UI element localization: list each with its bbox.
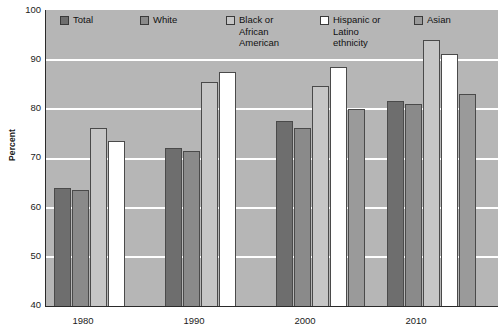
y-axis-ticks: 100 90 80 70 60 50 40 [0,0,41,336]
bar-hispanic-or-latino-ethnicity-2000 [330,67,347,306]
x-tick-1980: 1980 [53,315,113,326]
y-tick-60: 60 [15,202,41,212]
plot-area: Total White Black or African American Hi… [45,10,498,307]
bar-hispanic-or-latino-ethnicity-1980 [108,141,125,306]
bar-white-2000 [294,128,311,306]
bar-white-1980 [72,190,89,306]
bar-total-2010 [387,101,404,306]
bar-group-2000 [276,10,366,306]
bar-white-1990 [183,151,200,306]
bar-asian-2000 [348,109,365,306]
bar-group-2010 [387,10,477,306]
bar-group-1990 [165,10,255,306]
bar-black-or-african-american-2000 [312,86,329,306]
bar-hispanic-or-latino-ethnicity-2010 [441,54,458,306]
y-tick-100: 100 [15,5,41,15]
bar-white-2010 [405,104,422,306]
bar-black-or-african-american-2010 [423,40,440,306]
bar-group-1980 [54,10,144,306]
bar-black-or-african-american-1990 [201,82,218,306]
x-tick-1990: 1990 [164,315,224,326]
bar-total-1990 [165,148,182,306]
y-tick-40: 40 [15,300,41,310]
x-tick-2010: 2010 [386,315,446,326]
bar-total-2000 [276,121,293,306]
bar-total-1980 [54,188,71,306]
y-tick-90: 90 [15,54,41,64]
y-tick-50: 50 [15,251,41,261]
bar-hispanic-or-latino-ethnicity-1990 [219,72,236,306]
bar-asian-2010 [459,94,476,306]
x-tick-2000: 2000 [275,315,335,326]
bar-chart: Percent 100 90 80 70 60 50 40 Total Whit… [0,0,501,336]
y-tick-80: 80 [15,103,41,113]
y-tick-70: 70 [15,152,41,162]
bar-black-or-african-american-1980 [90,128,107,306]
